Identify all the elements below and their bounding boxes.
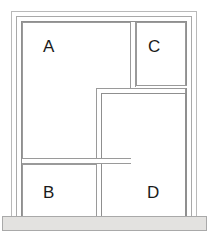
mullion-a-c-divider	[130, 22, 136, 87]
window-elevation-diagram: A B C D	[0, 0, 209, 235]
transom-c-bottom-divider	[136, 85, 187, 88]
transom-a-b-divider	[22, 158, 131, 164]
window-pane-d	[101, 93, 186, 219]
pane-label-b: B	[43, 184, 54, 201]
pane-label-c: C	[148, 38, 160, 55]
window-pane-c	[136, 22, 186, 87]
pane-label-a: A	[43, 38, 54, 55]
window-sill	[2, 216, 207, 231]
pane-label-d: D	[147, 184, 159, 201]
